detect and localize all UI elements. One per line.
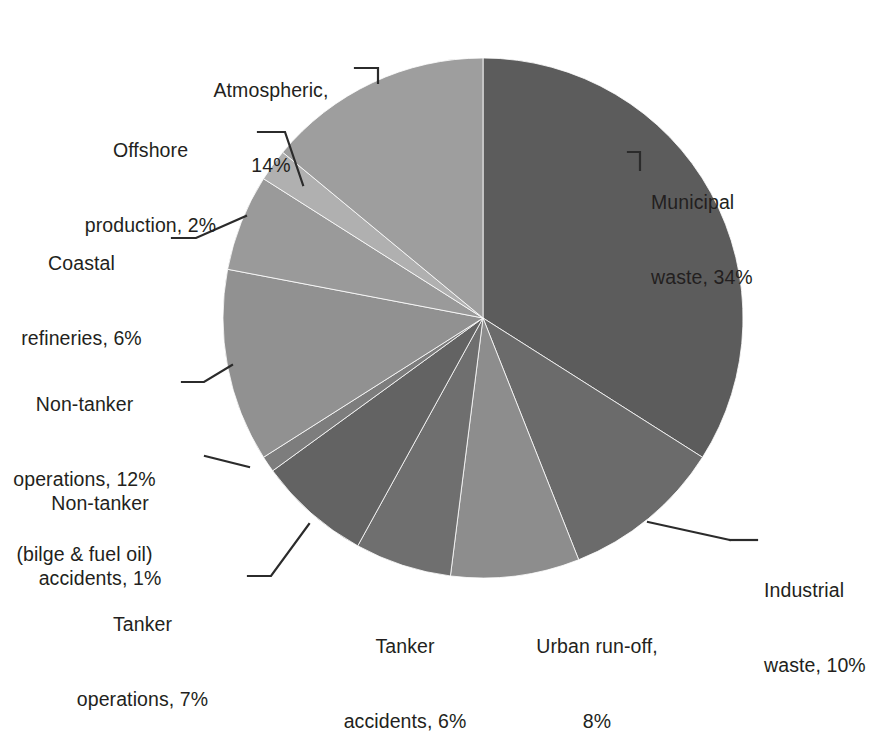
pie-label-tanker-operations-line2: operations, 7% xyxy=(40,687,245,712)
pie-label-coastal-refineries-line2: refineries, 6% xyxy=(0,326,169,351)
pie-label-urban-run-off: Urban run-off, 8% xyxy=(497,584,697,735)
pie-label-urban-run-off-line1: Urban run-off, xyxy=(497,634,697,659)
pie-label-tanker-accidents-line1: Tanker xyxy=(310,634,500,659)
leader-line-non-tanker-operations xyxy=(182,365,232,382)
pie-label-tanker-accidents-line2: accidents, 6% xyxy=(310,709,500,734)
leader-line-tanker-operations xyxy=(248,524,309,576)
pie-label-municipal-waste: Municipal waste, 34% xyxy=(651,140,866,340)
pie-label-atmospheric: Atmospheric, 14% xyxy=(190,28,352,228)
pie-label-industrial-waste-line1: Industrial xyxy=(764,578,874,603)
pie-label-non-tanker-operations-line3: (bilge & fuel oil) xyxy=(0,542,177,567)
pie-label-atmospheric-line1: Atmospheric, xyxy=(190,78,352,103)
pie-label-industrial-waste-line2: waste, 10% xyxy=(764,653,874,678)
pie-label-non-tanker-operations-line2: operations, 12% xyxy=(0,467,177,492)
pie-label-atmospheric-line2: 14% xyxy=(190,153,352,178)
leader-line-atmospheric xyxy=(355,68,378,83)
pie-label-urban-run-off-line2: 8% xyxy=(497,709,697,734)
leader-line-industrial-waste xyxy=(648,522,730,540)
pie-label-municipal-waste-line2: waste, 34% xyxy=(651,265,866,290)
pie-label-industrial-waste: Industrial waste, 10% xyxy=(764,528,874,728)
pie-label-tanker-accidents: Tanker accidents, 6% xyxy=(310,584,500,735)
pie-label-municipal-waste-line1: Municipal xyxy=(651,190,866,215)
leader-line-non-tanker-accidents xyxy=(205,456,249,467)
